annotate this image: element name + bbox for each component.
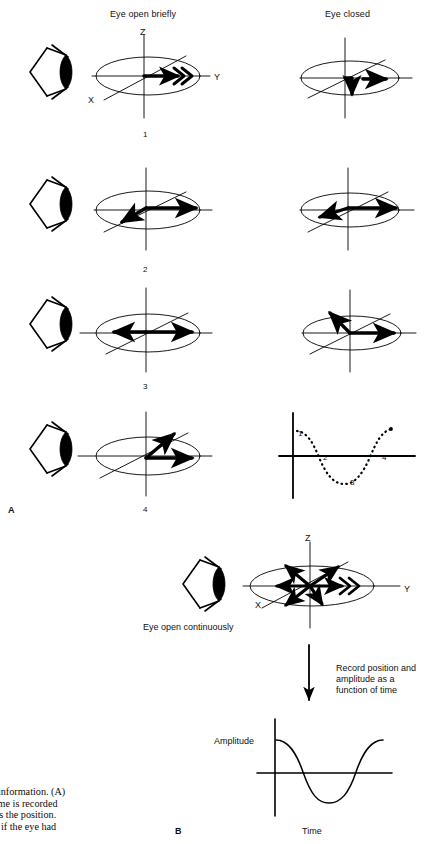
trace-plot-eye-closed bbox=[279, 413, 415, 498]
axis-label-y-panel-b: Y bbox=[404, 584, 410, 594]
row-number-1: 1 bbox=[143, 130, 147, 139]
row-number-3: 3 bbox=[143, 382, 147, 391]
diagram-row3-eye-open bbox=[80, 288, 212, 372]
diagram-row2-eye-open bbox=[94, 168, 212, 250]
eye-icon-row4 bbox=[30, 422, 72, 476]
trace-point-label-4: 4 bbox=[382, 453, 386, 462]
panel-label-a: A bbox=[8, 505, 15, 515]
axis-label-x-panel-b: X bbox=[255, 600, 261, 610]
caption-line-2: ction of time is recorded bbox=[0, 798, 58, 809]
axis-label-z-panel-b: Z bbox=[305, 533, 311, 543]
trace-point-label-1: 1 bbox=[298, 429, 302, 438]
eye-icon-panel-b bbox=[183, 557, 225, 611]
flow-note-line-1: Record position and bbox=[336, 663, 416, 673]
eye-icon-row1 bbox=[30, 45, 72, 99]
eye-state-label-continuous: Eye open continuously bbox=[143, 622, 234, 632]
axis-label-y-row1: Y bbox=[214, 72, 220, 82]
chart-x-axis-label-time: Time bbox=[302, 826, 322, 836]
diagram-row4-eye-open bbox=[78, 412, 212, 496]
figure-root: Eye open briefly Eye closed Z Y X 1 2 3 … bbox=[0, 0, 435, 844]
diagram-row3-eye-closed bbox=[302, 290, 416, 372]
trace-point-label-2: 2 bbox=[323, 453, 327, 462]
amplitude-time-chart bbox=[257, 719, 392, 816]
flow-note-line-3: function of time bbox=[336, 685, 397, 695]
axis-label-x-row1: X bbox=[88, 95, 94, 105]
diagram-panel-b-eye-open-continuously bbox=[243, 542, 400, 628]
eye-icon-row3 bbox=[30, 297, 72, 351]
trace-point-label-3: 3 bbox=[350, 478, 354, 487]
chart-y-axis-label-amplitude: Amplitude bbox=[214, 736, 254, 746]
flow-note-line-2: amplitude as a bbox=[336, 674, 395, 684]
figure-graphics bbox=[0, 0, 435, 844]
caption-line-1: requency information. (A) bbox=[0, 786, 65, 797]
row-number-2: 2 bbox=[143, 265, 147, 274]
axis-label-z-row1: Z bbox=[140, 27, 146, 37]
diagram-row1-eye-open bbox=[92, 35, 210, 118]
caption-line-3: s and notes the position. bbox=[0, 809, 56, 820]
figure-caption: requency information. (A) ction of time … bbox=[0, 786, 188, 832]
eye-icon-row2 bbox=[30, 177, 72, 231]
column-header-eye-closed: Eye closed bbox=[325, 9, 370, 19]
diagram-row2-eye-closed bbox=[300, 168, 414, 250]
diagram-row1-eye-closed bbox=[300, 38, 412, 118]
row-number-4: 4 bbox=[143, 505, 147, 514]
column-header-eye-open-briefly: Eye open briefly bbox=[110, 9, 176, 19]
caption-line-4: quency as if the eye had bbox=[0, 821, 56, 832]
